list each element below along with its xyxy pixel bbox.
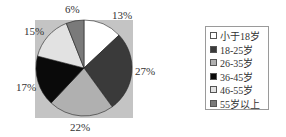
legend-swatch [210,73,217,80]
legend-item: 小于18岁 [210,29,268,43]
legend-swatch [210,32,217,39]
legend-swatch [210,46,217,53]
legend-swatch [210,100,217,107]
legend-item: 36-45岁 [210,70,268,84]
legend-label: 55岁以上 [220,96,260,111]
legend-item: 26-35岁 [210,56,268,70]
legend-item: 18-25岁 [210,43,268,57]
legend-item: 46-55岁 [210,83,268,97]
slice-label: 6% [65,4,80,15]
slice-label: 17% [16,82,36,93]
slice-label: 22% [70,122,90,133]
legend-swatch [210,59,217,66]
legend-item: 55岁以上 [210,97,268,111]
slice-label: 13% [112,10,132,21]
legend: 小于18岁 18-25岁 26-35岁 36-45岁 46-55岁 55岁以上 [205,26,269,110]
slice-label: 27% [135,66,155,77]
slice-label: 15% [24,26,44,37]
legend-swatch [210,86,217,93]
